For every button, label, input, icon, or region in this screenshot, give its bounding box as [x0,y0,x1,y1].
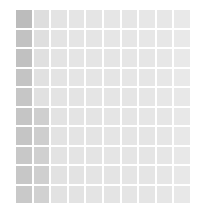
heatmap-cell[interactable] [69,10,85,28]
heatmap-cell[interactable] [157,186,173,204]
heatmap-cell[interactable] [16,127,32,145]
heatmap-cell[interactable] [86,88,102,106]
heatmap-cell[interactable] [104,88,120,106]
heatmap-plot-area[interactable] [16,10,190,203]
heatmap-cell[interactable] [122,10,138,28]
heatmap-cell[interactable] [104,30,120,48]
heatmap-cell[interactable] [86,49,102,67]
heatmap-cell[interactable] [174,108,190,126]
heatmap-cell[interactable] [174,10,190,28]
heatmap-cell[interactable] [174,69,190,87]
heatmap-cell[interactable] [157,30,173,48]
heatmap-cell[interactable] [174,49,190,67]
heatmap-cell[interactable] [86,69,102,87]
heatmap-cell[interactable] [69,30,85,48]
heatmap-cell[interactable] [69,186,85,204]
heatmap-cell[interactable] [51,88,67,106]
heatmap-cell[interactable] [34,10,50,28]
heatmap-cell[interactable] [122,30,138,48]
heatmap-cell[interactable] [34,30,50,48]
heatmap-cell[interactable] [139,69,155,87]
heatmap-cell[interactable] [139,49,155,67]
heatmap-cell[interactable] [86,186,102,204]
heatmap-cell[interactable] [69,88,85,106]
heatmap-cell[interactable] [69,69,85,87]
heatmap-cell[interactable] [174,30,190,48]
heatmap-cell[interactable] [139,108,155,126]
heatmap-cell[interactable] [51,30,67,48]
heatmap-cell[interactable] [139,10,155,28]
heatmap-cell[interactable] [104,127,120,145]
heatmap-cell[interactable] [157,127,173,145]
heatmap-cell[interactable] [104,49,120,67]
heatmap-cell[interactable] [34,147,50,165]
heatmap-cell[interactable] [86,147,102,165]
heatmap-cell[interactable] [34,108,50,126]
heatmap-cell[interactable] [174,147,190,165]
heatmap-cell[interactable] [16,186,32,204]
heatmap-cell[interactable] [157,49,173,67]
heatmap-cell[interactable] [157,88,173,106]
heatmap-cell[interactable] [16,108,32,126]
heatmap-cell[interactable] [86,30,102,48]
heatmap-cell[interactable] [174,186,190,204]
heatmap-cell[interactable] [16,30,32,48]
heatmap-cell[interactable] [16,147,32,165]
heatmap-cell[interactable] [34,186,50,204]
heatmap-cell[interactable] [174,127,190,145]
heatmap-cell[interactable] [34,127,50,145]
heatmap-cell[interactable] [139,186,155,204]
heatmap-cell[interactable] [139,30,155,48]
heatmap-cell[interactable] [51,49,67,67]
heatmap-cell[interactable] [139,127,155,145]
heatmap-cell[interactable] [122,69,138,87]
heatmap-cell[interactable] [122,147,138,165]
heatmap-cell[interactable] [69,147,85,165]
heatmap-cell[interactable] [157,108,173,126]
heatmap-cell[interactable] [69,127,85,145]
heatmap-cell[interactable] [174,166,190,184]
heatmap-cell[interactable] [51,186,67,204]
heatmap-cell[interactable] [157,147,173,165]
heatmap-cell[interactable] [34,69,50,87]
heatmap-cell[interactable] [157,69,173,87]
heatmap-cell[interactable] [122,166,138,184]
heatmap-cell[interactable] [69,108,85,126]
heatmap-cell[interactable] [122,49,138,67]
heatmap-cell[interactable] [104,186,120,204]
heatmap-cell[interactable] [104,147,120,165]
heatmap-cell[interactable] [16,10,32,28]
heatmap-cell[interactable] [51,108,67,126]
heatmap-cell[interactable] [122,186,138,204]
heatmap-cell[interactable] [86,108,102,126]
heatmap-cell[interactable] [122,127,138,145]
heatmap-cell[interactable] [51,147,67,165]
heatmap-cell[interactable] [174,88,190,106]
heatmap-cell[interactable] [34,88,50,106]
heatmap-cell[interactable] [16,49,32,67]
heatmap-cell[interactable] [104,108,120,126]
heatmap-cell[interactable] [51,166,67,184]
heatmap-cell[interactable] [139,88,155,106]
heatmap-cell[interactable] [69,166,85,184]
heatmap-cell[interactable] [139,166,155,184]
heatmap-cell[interactable] [86,127,102,145]
heatmap-cell[interactable] [16,88,32,106]
heatmap-cell[interactable] [86,10,102,28]
heatmap-cell[interactable] [104,10,120,28]
heatmap-cell[interactable] [51,127,67,145]
heatmap-cell[interactable] [122,88,138,106]
heatmap-cell[interactable] [139,147,155,165]
heatmap-cell[interactable] [51,69,67,87]
heatmap-cell[interactable] [51,10,67,28]
heatmap-cell[interactable] [157,166,173,184]
heatmap-cell[interactable] [16,69,32,87]
heatmap-cell[interactable] [34,166,50,184]
heatmap-cell[interactable] [16,166,32,184]
heatmap-cell[interactable] [157,10,173,28]
heatmap-cell[interactable] [34,49,50,67]
heatmap-cell[interactable] [104,69,120,87]
heatmap-cell[interactable] [69,49,85,67]
heatmap-cell[interactable] [86,166,102,184]
heatmap-cell[interactable] [104,166,120,184]
